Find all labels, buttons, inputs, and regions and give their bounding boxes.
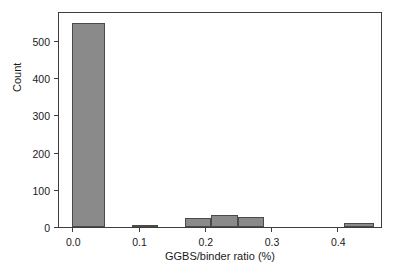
x-axis-title: GGBS/binder ratio (%)	[58, 250, 382, 262]
plot-area	[59, 13, 381, 227]
y-axis-tick: 100	[54, 190, 59, 191]
x-axis-tick-label: 0.1	[132, 236, 147, 248]
x-axis-tick: 0.2	[205, 227, 206, 232]
histogram-bar	[132, 225, 159, 227]
histogram-bar	[344, 223, 374, 227]
y-axis-tick: 400	[54, 78, 59, 79]
y-axis-tick-label: 0	[44, 222, 50, 234]
y-axis-tick-label: 100	[32, 185, 50, 197]
y-axis-tick-label: 400	[32, 73, 50, 85]
y-axis-tick: 500	[54, 41, 59, 42]
x-axis-tick-label: 0.0	[66, 236, 81, 248]
histogram-bar	[238, 217, 265, 227]
histogram-bar	[72, 23, 105, 227]
y-axis-tick: 300	[54, 115, 59, 116]
x-axis-tick-label: 0.2	[198, 236, 213, 248]
x-axis-tick: 0.3	[271, 227, 272, 232]
y-axis-tick-label: 300	[32, 110, 50, 122]
x-axis-tick: 0.0	[72, 227, 73, 232]
x-axis-tick: 0.1	[139, 227, 140, 232]
y-axis-title: Count	[11, 63, 23, 92]
x-axis-tick-label: 0.3	[265, 236, 280, 248]
y-axis-tick-label: 500	[32, 36, 50, 48]
y-axis-tick-label: 200	[32, 148, 50, 160]
histogram-bar	[185, 218, 212, 227]
histogram-bar	[211, 215, 238, 227]
x-axis-tick: 0.4	[337, 227, 338, 232]
y-axis-tick: 0	[54, 227, 59, 228]
plot-frame: 01002003004005000.00.10.20.30.4	[58, 12, 382, 228]
y-axis-tick: 200	[54, 153, 59, 154]
histogram-figure: Count 01002003004005000.00.10.20.30.4 GG…	[0, 0, 402, 273]
x-axis-tick-label: 0.4	[331, 236, 346, 248]
